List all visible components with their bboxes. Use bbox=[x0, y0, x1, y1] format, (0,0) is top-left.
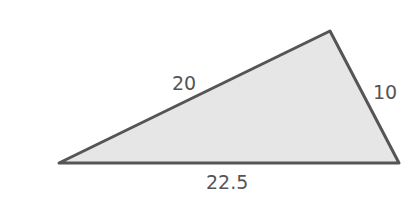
base-label: 22.5 bbox=[206, 171, 248, 193]
triangle-diagram: 20 10 22.5 bbox=[0, 0, 418, 207]
triangle-shape bbox=[59, 31, 399, 163]
left-side-label: 20 bbox=[172, 72, 196, 94]
right-side-label: 10 bbox=[373, 81, 397, 103]
